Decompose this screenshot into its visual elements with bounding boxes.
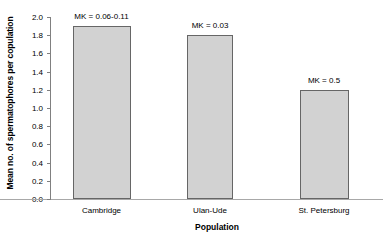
y-axis-tick-label: 1.0 — [32, 104, 43, 113]
x-axis-title: Population — [51, 222, 383, 232]
y-axis-title: Mean no. of spermatophores per copulatio… — [0, 0, 18, 205]
y-axis-tick-labels: 0.00.20.40.60.81.01.21.41.61.82.0 — [18, 17, 46, 199]
bar — [73, 26, 131, 199]
plot-area — [51, 17, 383, 199]
x-axis-line — [0, 199, 383, 200]
y-axis-tick-mark — [47, 199, 51, 200]
y-axis-tick-mark — [47, 163, 51, 164]
bar-chart: Mean no. of spermatophores per copulatio… — [0, 0, 387, 245]
y-axis-tick-mark — [47, 72, 51, 73]
y-axis-tick-label: 1.4 — [32, 67, 43, 76]
y-axis-tick-mark — [47, 35, 51, 36]
y-axis-tick-mark — [47, 144, 51, 145]
y-axis-title-label: Mean no. of spermatophores per copulatio… — [4, 16, 14, 189]
y-axis-tick-label: 2.0 — [32, 13, 43, 22]
y-axis-tick-label: 0.4 — [32, 158, 43, 167]
bar-annotation: MK = 0.03 — [192, 21, 229, 30]
y-axis-tick-label: 0.2 — [32, 176, 43, 185]
bar — [300, 90, 349, 199]
bar-annotation: MK = 0.06-0.11 — [74, 12, 128, 21]
y-axis-tick-mark — [47, 126, 51, 127]
bar-annotation: MK = 0.5 — [308, 76, 340, 85]
y-axis-tick-mark — [47, 53, 51, 54]
y-axis-tick-mark — [47, 181, 51, 182]
y-axis-tick-mark — [47, 90, 51, 91]
y-axis-tick-mark — [47, 17, 51, 18]
y-axis-tick-label: 1.8 — [32, 31, 43, 40]
y-axis-tick-label: 1.2 — [32, 85, 43, 94]
x-axis-tick-label: Cambridge — [82, 206, 121, 215]
y-axis-tick-label: 0.8 — [32, 122, 43, 131]
y-axis-tick-mark — [47, 108, 51, 109]
y-axis-tick-label: 1.6 — [32, 49, 43, 58]
x-axis-tick-label: St. Petersburg — [298, 206, 349, 215]
bar — [187, 35, 233, 199]
x-axis-tick-label: Ulan-Ude — [193, 206, 227, 215]
y-axis-tick-label: 0.6 — [32, 140, 43, 149]
